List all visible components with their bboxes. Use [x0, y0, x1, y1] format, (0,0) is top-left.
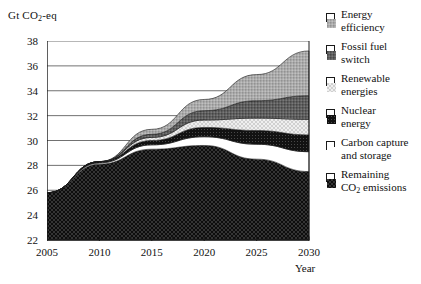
legend-item-label: Energyefficiency — [341, 8, 385, 33]
legend-label-line1: Carbon capture — [341, 136, 409, 149]
x-tick-label: 2010 — [88, 246, 110, 258]
x-tick-label: 2020 — [193, 246, 215, 258]
legend-item[interactable]: Energyefficiency — [326, 8, 421, 33]
legend: EnergyefficiencyFossil fuelswitchRenewab… — [326, 8, 421, 202]
legend-item[interactable]: RemainingCO2 emissions — [326, 168, 421, 195]
legend-label-line1: Remaining — [341, 168, 406, 181]
legend-swatch-light-dotted-icon — [326, 77, 335, 86]
legend-label-line2: efficiency — [341, 21, 385, 34]
y-tick-label-group: 222426283032343638 — [10, 0, 38, 284]
legend-item[interactable]: Nuclearenergy — [326, 104, 421, 129]
legend-label-line2: and storage — [341, 149, 409, 162]
legend-label-line1: Nuclear — [341, 104, 376, 117]
legend-label-line1: Energy — [341, 8, 385, 21]
legend-label-line2-suffix: emissions — [360, 181, 406, 193]
legend-item-label: Renewableenergies — [341, 72, 390, 97]
y-axis-label-subscript: 2 — [38, 14, 42, 23]
legend-item-label: Carbon captureand storage — [341, 136, 409, 161]
x-tick-label: 2030 — [298, 246, 320, 258]
legend-label-line2: energy — [341, 117, 376, 130]
x-axis-title: Year — [295, 262, 315, 274]
legend-label-line1: Renewable — [341, 72, 390, 85]
legend-label-line2: switch — [341, 53, 387, 66]
x-tick-label: 2015 — [141, 246, 163, 258]
legend-item-label: Fossil fuelswitch — [341, 40, 387, 65]
legend-swatch-black-fine-dotted-icon — [326, 109, 335, 118]
x-tick-label: 2025 — [246, 246, 268, 258]
legend-item[interactable]: Carbon captureand storage — [326, 136, 421, 161]
y-axis-label-suffix: -eq — [42, 9, 57, 21]
y-tick-label: 24 — [14, 209, 38, 221]
y-tick-label: 38 — [14, 35, 38, 47]
y-tick-label: 36 — [14, 60, 38, 72]
y-tick-label: 26 — [14, 184, 38, 196]
legend-swatch-white-icon — [326, 141, 335, 150]
plot-area — [47, 41, 309, 240]
y-tick-label: 28 — [14, 159, 38, 171]
legend-item[interactable]: Renewableenergies — [326, 72, 421, 97]
legend-swatch-dark-gray-dotted-icon — [326, 45, 335, 54]
legend-item[interactable]: Fossil fuelswitch — [326, 40, 421, 65]
legend-label-line2-subscript: 2 — [356, 186, 360, 195]
y-tick-label: 34 — [14, 85, 38, 97]
legend-item-label: RemainingCO2 emissions — [341, 168, 406, 195]
legend-label-line2-prefix: CO — [341, 181, 356, 193]
x-tick-label: 2005 — [36, 246, 58, 258]
y-tick-label: 22 — [14, 234, 38, 246]
legend-label-line2: CO2 emissions — [341, 181, 406, 196]
legend-item-label: Nuclearenergy — [341, 104, 376, 129]
y-tick-label: 30 — [14, 135, 38, 147]
legend-label-line2: energies — [341, 85, 390, 98]
y-tick-label: 32 — [14, 110, 38, 122]
legend-swatch-mid-gray-dotted-icon — [326, 13, 335, 22]
stacked-area-chart: Gt CO2-eq 222426283032343638 20052010201… — [0, 0, 421, 284]
legend-label-line1: Fossil fuel — [341, 40, 387, 53]
legend-swatch-black-dotted-icon — [326, 173, 335, 182]
